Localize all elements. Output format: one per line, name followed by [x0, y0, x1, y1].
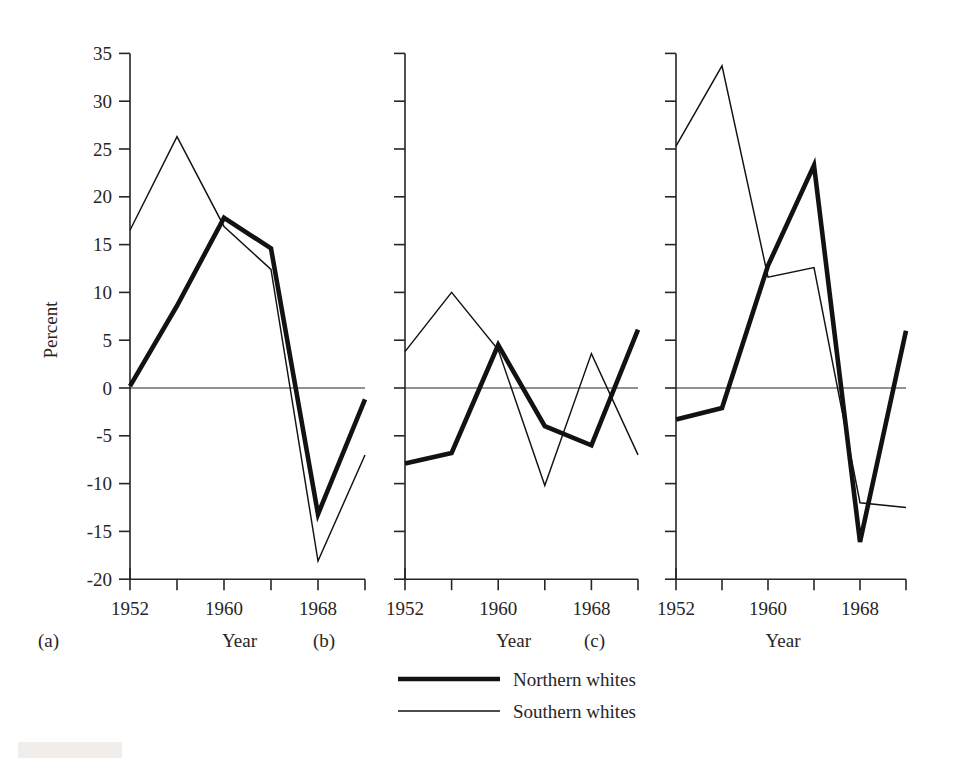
y-tick-label--20: -20: [87, 569, 112, 590]
panel-label-b: (b): [313, 630, 335, 652]
y-tick-label-5: 5: [103, 330, 113, 351]
y-tick-label--15: -15: [87, 521, 112, 542]
y-tick-label-20: 20: [93, 186, 112, 207]
multi-panel-line-chart: Percent 35302520151050-5-10-15-201952196…: [0, 0, 954, 767]
x-axis-label-a: Year: [222, 630, 258, 651]
y-tick-label-35: 35: [93, 43, 112, 64]
x-axis-label-c: Year: [765, 630, 801, 651]
x-axis-label-b: Year: [496, 630, 532, 651]
series-line-northern-whites: [130, 218, 365, 514]
series-line-northern-whites: [676, 165, 906, 542]
x-tick-label-1952: 1952: [386, 598, 424, 619]
panel-label-a: (a): [38, 630, 59, 652]
y-tick-label-0: 0: [103, 378, 113, 399]
x-tick-label-1952: 1952: [657, 598, 695, 619]
scan-artifact: [18, 742, 122, 758]
panel-c: 195219601968Year(c): [584, 53, 906, 652]
x-tick-label-1960: 1960: [205, 598, 243, 619]
y-tick-label-30: 30: [93, 91, 112, 112]
series-line-southern-whites: [130, 137, 365, 561]
series-line-southern-whites: [676, 66, 906, 508]
y-tick-label--5: -5: [96, 425, 112, 446]
legend-label-northern-whites: Northern whites: [513, 669, 636, 690]
panels-group: 35302520151050-5-10-15-20195219601968Yea…: [38, 43, 906, 652]
series-line-northern-whites: [405, 330, 638, 464]
x-tick-label-1968: 1968: [299, 598, 337, 619]
panel-b: 195219601968Year(b): [313, 53, 638, 652]
y-tick-label-15: 15: [93, 234, 112, 255]
panel-a: 35302520151050-5-10-15-20195219601968Yea…: [38, 43, 365, 652]
x-tick-label-1968: 1968: [572, 598, 610, 619]
x-tick-label-1952: 1952: [111, 598, 149, 619]
panel-label-c: (c): [584, 630, 605, 652]
y-tick-label--10: -10: [87, 473, 112, 494]
x-tick-label-1960: 1960: [749, 598, 787, 619]
y-axis-label: Percent: [40, 301, 61, 359]
x-tick-label-1960: 1960: [479, 598, 517, 619]
y-tick-label-25: 25: [93, 139, 112, 160]
chart-legend: Northern whitesSouthern whites: [398, 669, 636, 722]
figure-root: Percent 35302520151050-5-10-15-201952196…: [0, 0, 954, 767]
legend-label-southern-whites: Southern whites: [513, 701, 636, 722]
y-tick-label-10: 10: [93, 282, 112, 303]
x-tick-label-1968: 1968: [841, 598, 879, 619]
